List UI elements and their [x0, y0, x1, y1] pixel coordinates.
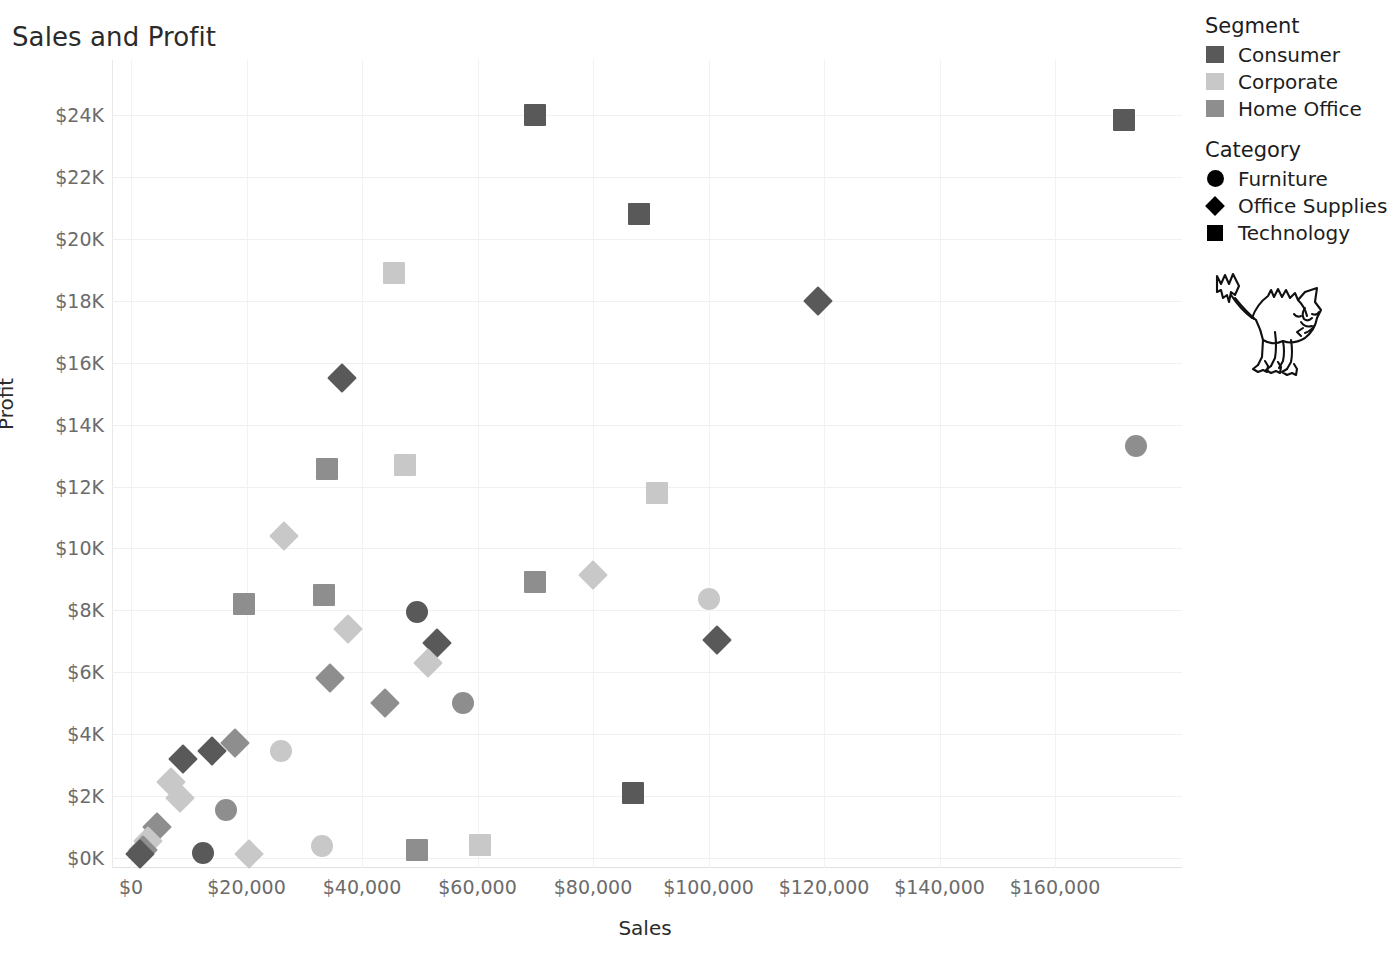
data-point-mark[interactable]: [215, 799, 237, 821]
data-point-mark[interactable]: [469, 834, 491, 856]
x-axis-tick-label: $20,000: [207, 876, 286, 898]
y-axis-tick-label: $18K: [8, 290, 104, 312]
y-axis-tick-label: $8K: [8, 599, 104, 621]
x-axis-tick-label: $120,000: [779, 876, 870, 898]
gridline-horizontal: [112, 858, 1182, 859]
data-point-mark[interactable]: [628, 203, 650, 225]
legend-item-label: Technology: [1238, 221, 1350, 245]
x-axis-title: Sales: [0, 916, 1290, 940]
x-axis-tick-label: $100,000: [663, 876, 754, 898]
gridline-vertical: [362, 60, 363, 868]
data-point-mark[interactable]: [311, 835, 333, 857]
page-title: Sales and Profit: [12, 22, 216, 52]
legend-title-category: Category: [1205, 138, 1395, 162]
gridline-horizontal: [112, 425, 1182, 426]
x-axis-tick-label: $80,000: [554, 876, 633, 898]
data-point-mark[interactable]: [313, 584, 335, 606]
legend-group-segment: Segment ConsumerCorporateHome Office: [1205, 14, 1395, 122]
legend-item-label: Corporate: [1238, 70, 1338, 94]
x-axis-tick-label: $160,000: [1010, 876, 1101, 898]
cat-illustration-icon: [1205, 262, 1337, 380]
plot-area[interactable]: [112, 60, 1182, 868]
gridline-horizontal: [112, 301, 1182, 302]
legend-item-label: Furniture: [1238, 167, 1328, 191]
x-axis-tick-label: $140,000: [894, 876, 985, 898]
y-axis-tick-labels: $0K$2K$4K$6K$8K$10K$12K$14K$16K$18K$20K$…: [0, 60, 104, 868]
y-axis-tick-label: $14K: [8, 414, 104, 436]
legend-group-category: Category FurnitureOffice SuppliesTechnol…: [1205, 138, 1395, 246]
legend-title-segment: Segment: [1205, 14, 1395, 38]
diamond-marker-icon: [1205, 192, 1225, 219]
gridline-horizontal: [112, 177, 1182, 178]
y-axis-tick-label: $4K: [8, 723, 104, 745]
legend-item-label: Office Supplies: [1238, 194, 1387, 218]
gridline-vertical: [824, 60, 825, 868]
legend-item-label: Consumer: [1238, 43, 1340, 67]
gridline-horizontal: [112, 548, 1182, 549]
legend-item-label: Home Office: [1238, 97, 1362, 121]
gridline-vertical: [593, 60, 594, 868]
gridline-horizontal: [112, 115, 1182, 116]
legend-segment-rows[interactable]: ConsumerCorporateHome Office: [1205, 41, 1395, 122]
legend-item-category[interactable]: Furniture: [1205, 165, 1395, 192]
y-axis-tick-label: $16K: [8, 352, 104, 374]
data-point-mark[interactable]: [1125, 435, 1147, 457]
circle-marker-icon: [1205, 165, 1225, 192]
data-point-mark[interactable]: [524, 571, 546, 593]
gridline-vertical: [1055, 60, 1056, 868]
data-point-mark[interactable]: [383, 262, 405, 284]
x-axis-tick-label: $60,000: [438, 876, 517, 898]
gridline-vertical: [940, 60, 941, 868]
square-marker-icon: [1205, 219, 1225, 246]
color-swatch-icon: [1205, 41, 1225, 68]
data-point-mark[interactable]: [394, 454, 416, 476]
y-axis-tick-label: $10K: [8, 537, 104, 559]
data-point-mark[interactable]: [1113, 109, 1135, 131]
data-point-mark[interactable]: [406, 601, 428, 623]
y-axis-tick-label: $20K: [8, 228, 104, 250]
data-point-mark[interactable]: [192, 842, 214, 864]
y-axis-tick-label: $2K: [8, 785, 104, 807]
y-axis-title: Profit: [0, 378, 18, 430]
legend-item-segment[interactable]: Home Office: [1205, 95, 1395, 122]
y-axis-tick-label: $12K: [8, 476, 104, 498]
y-axis-tick-label: $6K: [8, 661, 104, 683]
gridline-vertical: [478, 60, 479, 868]
color-swatch-icon: [1205, 68, 1225, 95]
gridline-horizontal: [112, 239, 1182, 240]
data-point-mark[interactable]: [406, 839, 428, 861]
legend-category-rows[interactable]: FurnitureOffice SuppliesTechnology: [1205, 165, 1395, 246]
sales-and-profit-scatter-chart: Sales and Profit $0K$2K$4K$6K$8K$10K$12K…: [0, 0, 1399, 953]
gridline-vertical: [131, 60, 132, 868]
data-point-mark[interactable]: [622, 782, 644, 804]
legend-item-category[interactable]: Office Supplies: [1205, 192, 1395, 219]
legend-item-segment[interactable]: Consumer: [1205, 41, 1395, 68]
legend-item-segment[interactable]: Corporate: [1205, 68, 1395, 95]
data-point-mark[interactable]: [270, 740, 292, 762]
gridline-vertical: [247, 60, 248, 868]
data-point-mark[interactable]: [452, 692, 474, 714]
data-point-mark[interactable]: [646, 482, 668, 504]
y-axis-tick-label: $24K: [8, 104, 104, 126]
gridline-horizontal: [112, 734, 1182, 735]
legend-item-category[interactable]: Technology: [1205, 219, 1395, 246]
y-axis-tick-label: $0K: [8, 847, 104, 869]
data-point-mark[interactable]: [316, 458, 338, 480]
gridline-horizontal: [112, 672, 1182, 673]
x-axis-tick-label: $0: [119, 876, 143, 898]
data-point-mark[interactable]: [698, 588, 720, 610]
legend: Segment ConsumerCorporateHome Office Cat…: [1205, 14, 1395, 262]
data-point-mark[interactable]: [233, 593, 255, 615]
y-axis-tick-label: $22K: [8, 166, 104, 188]
color-swatch-icon: [1205, 95, 1225, 122]
gridline-horizontal: [112, 610, 1182, 611]
x-axis-tick-label: $40,000: [323, 876, 402, 898]
data-point-mark[interactable]: [524, 104, 546, 126]
x-axis-tick-labels: $0$20,000$40,000$60,000$80,000$100,000$1…: [0, 876, 1399, 906]
gridline-horizontal: [112, 363, 1182, 364]
gridline-vertical: [709, 60, 710, 868]
gridline-horizontal: [112, 796, 1182, 797]
